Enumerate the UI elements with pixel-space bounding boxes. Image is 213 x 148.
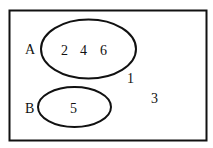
- set-b-element: 5: [70, 101, 77, 116]
- set-a-element: 6: [100, 43, 107, 58]
- venn-diagram: A 2 4 6 1 3 B 5: [0, 0, 213, 148]
- outside-element: 3: [151, 91, 158, 106]
- outside-element: 1: [127, 71, 134, 86]
- set-b-label: B: [25, 101, 34, 116]
- set-a-element: 2: [61, 43, 68, 58]
- set-a-label: A: [25, 42, 36, 57]
- set-a-element: 4: [80, 43, 87, 58]
